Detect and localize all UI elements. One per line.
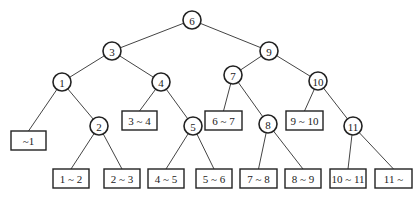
leaf-label: 6 ~ 7 — [212, 115, 235, 127]
node-label: 8 — [265, 119, 271, 131]
leaf-label: 4 ~ 5 — [155, 173, 178, 185]
leaf-label: 5 ~ 6 — [203, 173, 226, 185]
interval-leaf: ~1 — [11, 131, 46, 150]
node-label: 10 — [313, 76, 325, 88]
leaf-label: ~1 — [23, 135, 34, 147]
interval-leaf: 2 ~ 3 — [104, 169, 140, 188]
node-label: 9 — [266, 46, 272, 58]
interval-leaf: 4 ~ 5 — [148, 169, 184, 188]
interval-leaf: 7 ~ 8 — [240, 169, 277, 188]
interval-leaf: 3 ~ 4 — [122, 111, 157, 130]
interval-leaf: 6 ~ 7 — [205, 111, 242, 130]
node-label: 6 — [189, 15, 195, 27]
key-node: 8 — [259, 115, 277, 133]
node-label: 2 — [96, 121, 102, 133]
leaf-label: 10 ~ 11 — [331, 173, 364, 185]
leaf-label: 8 ~ 9 — [292, 173, 315, 185]
tree-edge — [192, 20, 269, 51]
node-label: 1 — [59, 77, 65, 89]
key-node: 10 — [309, 72, 327, 90]
key-node: 1 — [53, 73, 71, 91]
interval-leaf: 8 ~ 9 — [285, 169, 321, 188]
key-node: 11 — [344, 117, 362, 135]
leaf-label: 1 ~ 2 — [60, 173, 82, 185]
interval-leaf: 11 ~ — [375, 169, 412, 188]
key-node: 7 — [224, 66, 242, 84]
node-label: 4 — [158, 77, 164, 89]
node-label: 7 — [230, 70, 236, 82]
node-label: 3 — [109, 46, 115, 58]
key-node: 2 — [90, 117, 108, 135]
leaf-label: 11 ~ — [384, 173, 403, 185]
key-node: 5 — [184, 117, 202, 135]
key-node: 4 — [152, 73, 170, 91]
node-label: 5 — [190, 121, 196, 133]
key-node: 9 — [260, 42, 278, 60]
node-label: 11 — [348, 121, 359, 133]
leaf-label: 9 ~ 10 — [291, 115, 319, 127]
interval-leaf: 5 ~ 6 — [196, 169, 232, 188]
tree-diagram: ~11 ~ 22 ~ 33 ~ 44 ~ 55 ~ 66 ~ 77 ~ 88 ~… — [0, 0, 417, 198]
tree-edges — [29, 20, 394, 169]
key-node: 3 — [103, 42, 121, 60]
interval-leaf: 1 ~ 2 — [53, 169, 89, 188]
key-node: 6 — [183, 11, 201, 29]
leaf-label: 2 ~ 3 — [111, 173, 134, 185]
leaf-label: 7 ~ 8 — [247, 173, 270, 185]
tree-edge — [112, 20, 192, 51]
leaf-label: 3 ~ 4 — [128, 115, 151, 127]
interval-leaf: 10 ~ 11 — [330, 169, 366, 188]
interval-leaf: 9 ~ 10 — [286, 111, 323, 130]
